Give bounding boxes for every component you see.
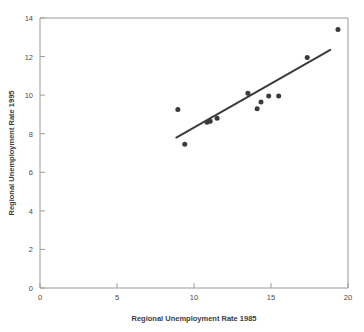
x-axis-title: Regional Unemployment Rate 1985 [131,314,256,323]
data-point [276,94,281,99]
data-point [266,94,271,99]
trend-line [176,50,330,138]
x-tick-label: 20 [344,293,352,302]
data-point [305,55,310,60]
x-tick-label: 10 [190,293,198,302]
data-point [255,106,260,111]
y-axis-title: Regional Unemployment Rate 1995 [7,90,16,215]
y-tick-label: 4 [29,207,33,216]
data-point [245,91,250,96]
y-tick-label: 6 [29,168,33,177]
data-point [258,99,263,104]
x-tick-label: 15 [267,293,275,302]
data-point [215,116,220,121]
x-tick-label: 5 [115,293,119,302]
y-axis-tick-labels: 0 2 4 6 8 10 12 14 [25,14,33,293]
plot-frame [40,18,348,288]
x-tick-label: 0 [38,293,42,302]
scatter-plot-figure: 0 5 10 15 20 0 2 4 6 8 10 12 14 Regional… [0,0,364,332]
data-point [182,142,187,147]
y-axis-ticks [40,18,45,288]
y-tick-label: 2 [29,245,33,254]
x-axis-ticks [40,283,348,288]
data-point [175,107,180,112]
y-tick-label: 8 [29,130,33,139]
y-tick-label: 10 [25,91,33,100]
y-tick-label: 14 [25,14,33,23]
data-point [335,27,340,32]
x-axis-tick-labels: 0 5 10 15 20 [38,293,352,302]
data-point [208,119,213,124]
y-tick-label: 12 [25,53,33,62]
data-series-layer [175,27,340,147]
chart-canvas: 0 5 10 15 20 0 2 4 6 8 10 12 14 Regional… [0,0,364,332]
y-tick-label: 0 [29,284,33,293]
